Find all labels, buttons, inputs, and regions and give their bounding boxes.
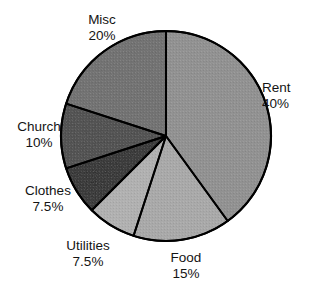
slice-label-misc-value: 20% [74, 28, 130, 44]
slice-label-misc: Misc 20% [74, 12, 130, 44]
slice-label-food-name: Food [160, 250, 212, 266]
slice-label-clothes: Clothes 7.5% [16, 183, 80, 215]
slice-label-rent: Rent 40% [262, 80, 314, 112]
slice-label-utilities-name: Utilities [55, 238, 121, 254]
slice-label-clothes-name: Clothes [16, 183, 80, 199]
slice-label-utilities: Utilities 7.5% [55, 238, 121, 270]
slice-label-rent-value: 40% [262, 96, 314, 112]
slice-label-utilities-value: 7.5% [55, 254, 121, 270]
slice-label-church-value: 10% [8, 135, 70, 151]
slice-label-food: Food 15% [160, 250, 212, 282]
slice-label-clothes-value: 7.5% [16, 199, 80, 215]
pie-chart: Misc 20% Rent 40% Church 10% Clothes 7.5… [0, 0, 317, 297]
slice-label-rent-name: Rent [262, 80, 314, 96]
slice-label-misc-name: Misc [74, 12, 130, 28]
slice-label-church-name: Church [8, 119, 70, 135]
slice-label-church: Church 10% [8, 119, 70, 151]
slice-label-food-value: 15% [160, 266, 212, 282]
